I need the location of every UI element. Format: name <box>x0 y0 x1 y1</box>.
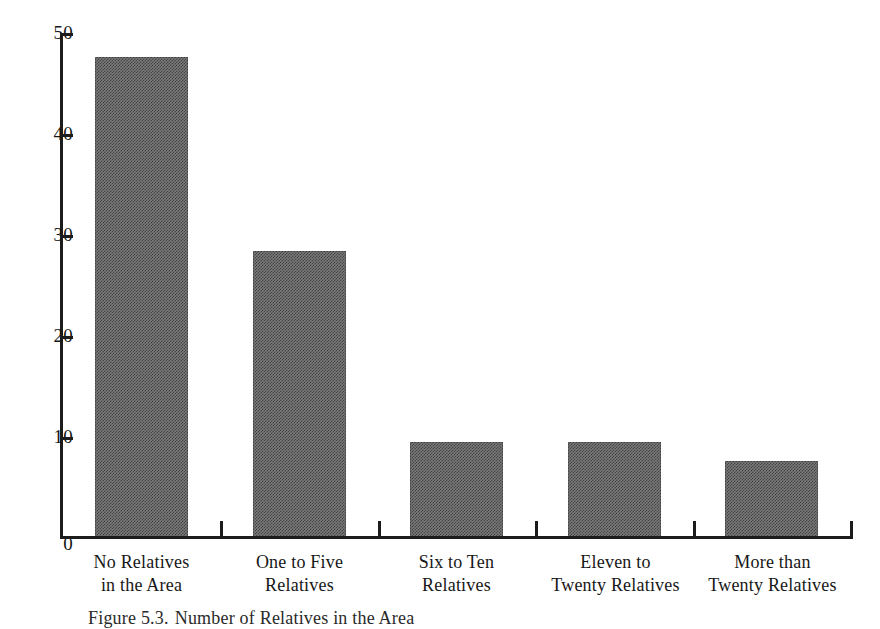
x-category-label-3-line1: Six to Ten <box>419 552 494 572</box>
figure-caption: Figure 5.3.Number of Relatives in the Ar… <box>88 607 414 629</box>
x-tick-mark-1 <box>220 521 223 537</box>
x-category-label-2: One to Five Relatives <box>224 551 375 597</box>
x-tick-mark-3 <box>535 521 538 537</box>
bar-slot-2 <box>253 32 346 537</box>
bar-slot-5 <box>725 32 818 537</box>
bar-six-to-ten-relatives <box>410 442 503 537</box>
x-category-label-5-line1: More than <box>734 552 810 572</box>
x-category-label-4: Eleven to Twenty Relatives <box>533 551 698 597</box>
x-tick-mark-4 <box>693 521 696 537</box>
x-category-label-3-line2: Relatives <box>381 574 532 597</box>
bar-one-to-five-relatives <box>253 251 346 537</box>
x-tick-mark-2 <box>378 521 381 537</box>
figure-caption-text: Number of Relatives in the Area <box>175 608 415 628</box>
bar-slot-4 <box>568 32 661 537</box>
figure-caption-number: Figure 5.3. <box>88 608 169 628</box>
bar-more-than-twenty-relatives <box>725 461 818 537</box>
x-category-label-4-line2: Twenty Relatives <box>533 574 698 597</box>
x-category-label-2-line1: One to Five <box>256 552 343 572</box>
bar-slot-1 <box>95 32 188 537</box>
x-axis-line <box>60 536 853 539</box>
bar-eleven-to-twenty-relatives <box>568 442 661 537</box>
x-category-label-1: No Relatives in the Area <box>66 551 217 597</box>
x-category-label-5-line2: Twenty Relatives <box>690 574 855 597</box>
bar-slot-3 <box>410 32 503 537</box>
x-category-label-3: Six to Ten Relatives <box>381 551 532 597</box>
x-category-label-1-line2: in the Area <box>66 574 217 597</box>
x-axis-end-tick <box>850 521 853 537</box>
bars-layer <box>0 0 880 537</box>
x-category-label-5: More than Twenty Relatives <box>690 551 855 597</box>
x-category-label-4-line1: Eleven to <box>580 552 650 572</box>
bar-no-relatives-in-the-area <box>95 57 188 537</box>
x-category-label-1-line1: No Relatives <box>94 552 190 572</box>
x-category-label-2-line2: Relatives <box>224 574 375 597</box>
